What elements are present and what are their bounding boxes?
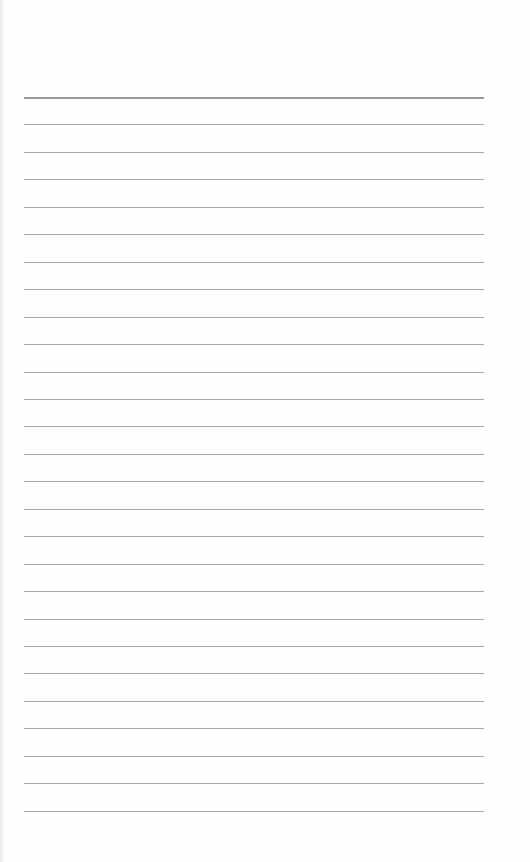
ruled-line <box>24 317 484 318</box>
ruled-line <box>24 124 484 125</box>
ruled-line <box>24 234 484 235</box>
ruled-line <box>24 811 484 812</box>
ruled-line <box>24 372 484 373</box>
ruled-line <box>24 591 484 592</box>
ruled-line <box>24 728 484 729</box>
ruled-line <box>24 619 484 620</box>
ruled-line <box>24 509 484 510</box>
ruled-line <box>24 564 484 565</box>
ruled-line <box>24 97 484 99</box>
ruled-line <box>24 152 484 153</box>
ruled-line <box>24 399 484 400</box>
lined-paper-page <box>0 0 530 862</box>
ruled-line <box>24 426 484 427</box>
page-edge-shadow <box>0 0 4 862</box>
ruled-line <box>24 756 484 757</box>
ruled-line <box>24 207 484 208</box>
ruled-line <box>24 646 484 647</box>
ruled-line <box>24 454 484 455</box>
ruled-line <box>24 179 484 180</box>
ruled-line <box>24 289 484 290</box>
ruled-line <box>24 481 484 482</box>
ruled-line <box>24 783 484 784</box>
ruled-line <box>24 262 484 263</box>
ruled-line <box>24 536 484 537</box>
ruled-line <box>24 701 484 702</box>
ruled-line <box>24 673 484 674</box>
ruled-line <box>24 344 484 345</box>
